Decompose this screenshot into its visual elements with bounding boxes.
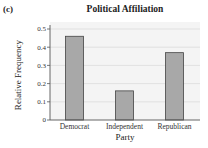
- bar-republican: [166, 53, 184, 120]
- y-tick-label: 0.4: [37, 44, 46, 52]
- y-tick-label: 0.2: [37, 80, 46, 88]
- bar-independent: [116, 91, 134, 120]
- y-tick-label: 0: [43, 116, 47, 124]
- y-tick-label: 0.3: [37, 62, 46, 70]
- y-tick-label: 0.1: [37, 98, 46, 106]
- y-tick-label: 0.5: [37, 25, 46, 33]
- bar-democrat: [66, 36, 84, 120]
- x-tick-label: Democrat: [60, 122, 90, 131]
- x-tick-label: Independent: [106, 122, 144, 131]
- x-tick-label: Republican: [157, 122, 191, 131]
- bar-chart: 00.10.20.30.40.5DemocratIndependentRepub…: [0, 0, 208, 148]
